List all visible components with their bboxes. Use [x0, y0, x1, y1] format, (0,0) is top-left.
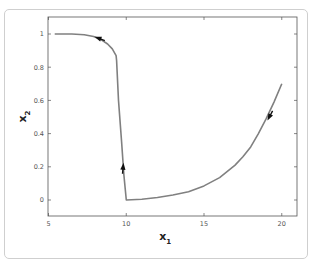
y-tick-label: 0 — [40, 196, 44, 204]
y-tick-label: 0.8 — [34, 64, 44, 72]
y-tick-label: 0.6 — [34, 97, 44, 105]
x-tick-label: 15 — [200, 220, 208, 228]
x-axis-label: x1 — [159, 230, 171, 246]
y-tick-label: 0.2 — [34, 163, 44, 171]
y-tick-label: 0.4 — [34, 130, 44, 138]
plot-area — [48, 17, 297, 216]
x-tick-label: 20 — [278, 220, 286, 228]
x-tick-label: 10 — [122, 220, 130, 228]
y-axis-label: x2 — [16, 110, 32, 122]
y-tick-label: 1 — [40, 30, 44, 38]
x-tick-label: 5 — [46, 220, 50, 228]
